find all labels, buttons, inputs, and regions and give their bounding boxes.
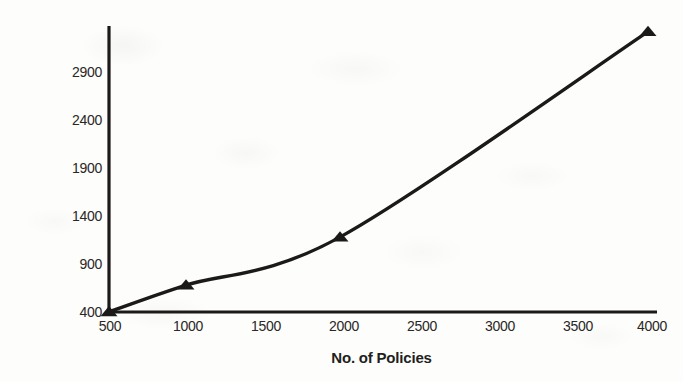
data-point-marker: [640, 26, 657, 36]
data-series-line: [109, 32, 648, 312]
chart-figure: Time (in msec) 400 900 1400 1900 2400 29…: [0, 0, 683, 382]
axes-group: [108, 26, 657, 313]
plot-area: [0, 0, 683, 382]
data-point-markers: [101, 26, 657, 317]
